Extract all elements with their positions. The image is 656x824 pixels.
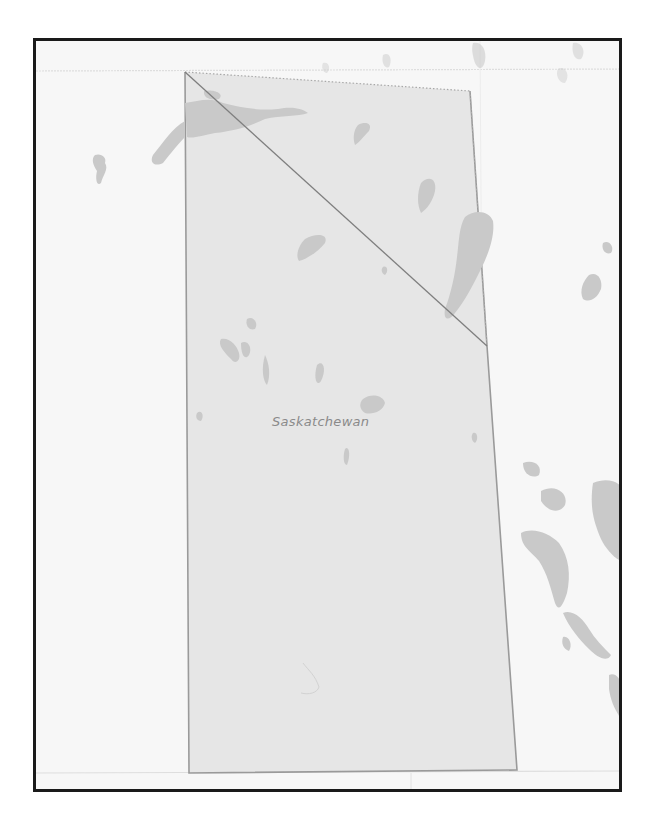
lake-manitoba-5 <box>609 674 622 723</box>
lake-top-strip-5 <box>557 68 567 83</box>
gridline-top <box>36 69 622 71</box>
lake-top-strip-3 <box>382 54 390 67</box>
lake-manitoba-6 <box>562 637 570 651</box>
lake-top-strip-2 <box>572 43 583 60</box>
map-frame[interactable]: Saskatchewan <box>33 38 622 792</box>
lake-manitoba-4 <box>563 612 611 659</box>
lake-ne-2 <box>602 242 612 253</box>
lake-top-strip-4 <box>322 63 329 73</box>
lake-manitoba-3 <box>521 531 569 608</box>
lake-top-strip-1 <box>472 43 485 68</box>
lake-manitoba-1 <box>523 462 540 477</box>
lake-ne-1 <box>581 274 601 301</box>
lake-winnipeg <box>592 480 622 563</box>
lake-manitoba-2 <box>541 488 566 511</box>
region-label-saskatchewan: Saskatchewan <box>272 414 369 429</box>
lake-athabasca-west <box>152 121 185 165</box>
lake-small-west <box>93 154 107 184</box>
